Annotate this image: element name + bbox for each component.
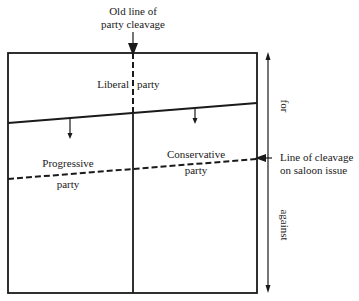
axis-for-label: for xyxy=(279,100,291,113)
axis-up-arrowhead-icon xyxy=(266,52,271,60)
saloon-label-1: Line of cleavage xyxy=(280,151,353,163)
conservative-label-2: party xyxy=(185,164,208,176)
shift-arrow-right-head-icon xyxy=(193,118,198,124)
axis-against-label: against xyxy=(279,209,291,240)
old-line-label-1: Old line of xyxy=(109,5,157,17)
liberal-label-1: Liberal xyxy=(97,78,129,90)
old-line-label-2: party cleavage xyxy=(101,18,165,30)
conservative-label-1: Conservative xyxy=(167,148,225,160)
old-line-arrowhead-icon xyxy=(128,43,138,56)
liberal-label-2: party xyxy=(137,78,160,90)
progressive-label-2: party xyxy=(57,178,80,190)
party-cleavage-diagram: Old line of party cleavage Liberal party… xyxy=(0,0,359,301)
progressive-label-1: Progressive xyxy=(42,157,93,169)
shift-arrow-left-head-icon xyxy=(68,133,73,139)
axis-down-arrowhead-icon xyxy=(266,285,271,293)
saloon-label-2: on saloon issue xyxy=(280,164,347,176)
